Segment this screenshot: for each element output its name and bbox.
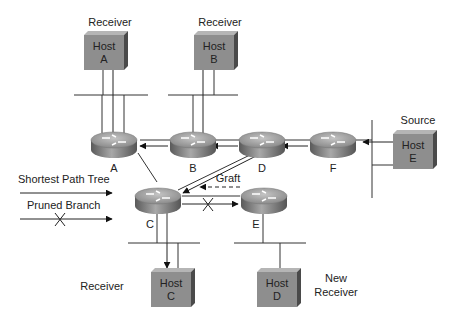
- svg-text:Host: Host: [160, 277, 183, 289]
- svg-text:C: C: [146, 218, 154, 230]
- host-b-role: Receiver: [198, 16, 242, 28]
- host-c-role: Receiver: [80, 280, 124, 292]
- router-b[interactable]: B: [170, 132, 216, 174]
- svg-text:E: E: [252, 218, 259, 230]
- svg-text:Host: Host: [402, 139, 425, 151]
- host-b[interactable]: Receiver Host B: [194, 16, 242, 70]
- host-a[interactable]: Receiver Host A: [84, 16, 132, 70]
- legend-spt-label: Shortest Path Tree: [18, 173, 110, 185]
- legend-pruned-label: Pruned Branch: [27, 199, 100, 211]
- svg-text:E: E: [409, 152, 416, 164]
- legend: Shortest Path Tree Pruned Branch: [18, 173, 112, 226]
- lan-segments: [74, 95, 372, 243]
- host-d[interactable]: New Receiver Host D: [257, 268, 358, 307]
- host-c[interactable]: Receiver Host C: [80, 268, 195, 307]
- svg-text:Host: Host: [203, 40, 226, 52]
- links: [102, 70, 395, 268]
- router-a[interactable]: A: [91, 132, 137, 174]
- host-a-role: Receiver: [88, 16, 132, 28]
- router-f[interactable]: F: [310, 132, 356, 174]
- graft-arrow: Graft: [200, 172, 240, 187]
- router-d[interactable]: D: [239, 132, 285, 174]
- host-e-role: Source: [401, 114, 436, 126]
- svg-text:D: D: [273, 290, 281, 302]
- svg-text:Host: Host: [266, 277, 289, 289]
- svg-text:B: B: [189, 162, 196, 174]
- svg-text:F: F: [330, 162, 337, 174]
- network-diagram: Graft Shortest Path Tree Pruned Branch R…: [0, 0, 452, 319]
- pruned-branch-c-e: [182, 198, 238, 211]
- svg-text:C: C: [167, 290, 175, 302]
- svg-text:A: A: [110, 162, 118, 174]
- host-d-role-line1: New: [325, 272, 347, 284]
- router-c[interactable]: C: [135, 188, 181, 230]
- host-e[interactable]: Source Host E: [393, 114, 437, 169]
- svg-text:B: B: [210, 53, 217, 65]
- router-e[interactable]: E: [241, 188, 287, 230]
- svg-text:A: A: [100, 53, 108, 65]
- svg-text:Host: Host: [93, 40, 116, 52]
- svg-text:D: D: [258, 162, 266, 174]
- graft-label: Graft: [216, 172, 240, 184]
- host-d-role-line2: Receiver: [314, 286, 358, 298]
